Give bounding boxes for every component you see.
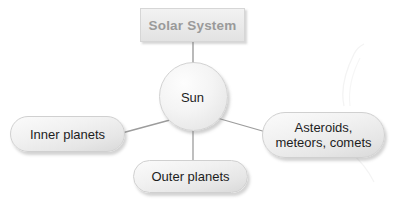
node-outer-planets-label: Outer planets xyxy=(151,169,229,184)
node-sun-label: Sun xyxy=(181,90,204,105)
connector-sun-to-asteroids xyxy=(217,118,266,132)
diagram-title-box: Solar System xyxy=(140,8,245,42)
node-inner-planets: Inner planets xyxy=(10,116,125,152)
node-asteroids-meteors-comets-label: Asteroids, meteors, comets xyxy=(275,120,371,150)
diagram-canvas: Solar System Sun Inner planets Outer pla… xyxy=(0,0,393,209)
node-inner-planets-label: Inner planets xyxy=(30,127,105,142)
connector-sun-to-inner-planets xyxy=(122,120,170,133)
node-asteroids-meteors-comets: Asteroids, meteors, comets xyxy=(262,112,385,158)
diagram-title-label: Solar System xyxy=(149,18,237,33)
node-sun: Sun xyxy=(159,62,228,131)
node-outer-planets: Outer planets xyxy=(133,160,248,193)
